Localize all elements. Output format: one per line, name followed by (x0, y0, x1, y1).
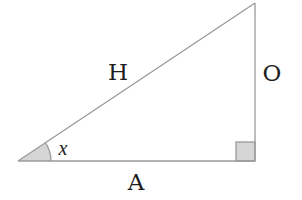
right-angle-marker (236, 142, 255, 161)
hypotenuse-label: H (108, 59, 128, 85)
right-triangle-diagram: H O A x (0, 0, 302, 200)
opposite-label: O (263, 60, 282, 86)
angle-label: x (58, 137, 68, 159)
hypotenuse-side (18, 3, 255, 161)
adjacent-label: A (127, 169, 145, 195)
